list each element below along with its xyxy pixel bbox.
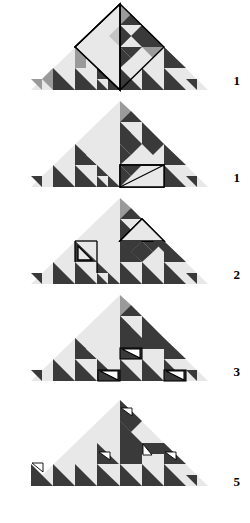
triangle-diagram-4 bbox=[0, 291, 250, 388]
panel-count-label-4: 3 bbox=[220, 365, 240, 378]
dark-cell bbox=[142, 122, 164, 144]
fibonacci-triangle-figure: 1 bbox=[0, 0, 250, 523]
panel-count-label-3: 2 bbox=[220, 268, 240, 281]
dark-cell bbox=[164, 241, 186, 262]
light-cell bbox=[142, 454, 164, 464]
triangle-panel-3: 2 bbox=[0, 194, 250, 291]
panel-count-label-2: 1 bbox=[220, 171, 240, 184]
triangle-diagram-5 bbox=[0, 396, 250, 493]
panel-count-label-1: 1 bbox=[220, 74, 240, 87]
triangle-diagram-2 bbox=[0, 97, 250, 194]
triangle-diagram-3 bbox=[0, 194, 250, 291]
light-cell bbox=[142, 349, 164, 359]
dark-cell bbox=[164, 338, 186, 359]
dark-cell bbox=[142, 316, 164, 338]
triangle-panel-5: 5 bbox=[0, 396, 250, 493]
dark-cell bbox=[164, 144, 186, 165]
triangle-panel-4: 3 bbox=[0, 291, 250, 388]
triangle-panel-2: 1 bbox=[0, 97, 250, 194]
triangle-panel-1: 1 bbox=[0, 0, 250, 97]
panel-count-label-5: 5 bbox=[220, 475, 240, 488]
triangle-diagram-1 bbox=[0, 0, 250, 97]
